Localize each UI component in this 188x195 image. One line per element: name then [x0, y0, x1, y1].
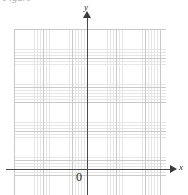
x-axis-label: x	[179, 162, 183, 172]
y-axis-arrow-icon	[83, 11, 91, 18]
origin-label: 0	[76, 170, 82, 185]
x-axis-line	[6, 169, 172, 170]
coordinate-grid-figure: Figure x y 0	[0, 0, 188, 195]
x-axis-arrow-icon	[170, 165, 177, 173]
y-axis-line	[87, 18, 88, 195]
graph-paper-grid	[14, 29, 166, 195]
y-axis-label: y	[84, 2, 88, 12]
caption-fragment-text: Figure	[3, 0, 31, 3]
